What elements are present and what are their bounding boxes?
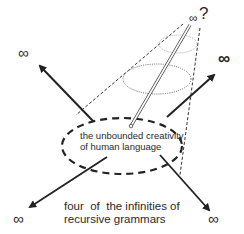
infinity-lower-left-icon: ∞ — [13, 211, 24, 226]
center-label-line2: of human language — [80, 141, 184, 152]
infinity-top-icon: ∞ — [189, 11, 198, 26]
infinity-upper-left-icon: ∞ — [18, 45, 29, 60]
diagram-svg — [0, 0, 244, 234]
infinity-upper-right-icon: ∞ — [218, 50, 230, 67]
caption-line2: recursive grammars — [64, 213, 180, 226]
caption: four of the infinities of recursive gram… — [64, 200, 180, 226]
question-mark: ? — [199, 5, 208, 22]
center-label: the unbounded creativity of human langua… — [80, 130, 184, 152]
infinity-lower-right-icon: ∞ — [208, 211, 219, 226]
needle — [129, 25, 190, 128]
caption-line1: four of the infinities of — [64, 200, 180, 213]
center-label-line1: the unbounded creativity — [80, 130, 184, 141]
arrow-upper-left — [40, 66, 93, 121]
diagram-canvas: ∞ ? ∞ ∞ ∞ ∞ the unbounded creativity of … — [0, 0, 244, 234]
